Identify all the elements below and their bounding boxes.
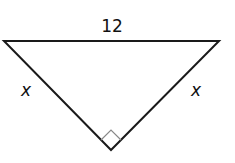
triangle: [4, 41, 219, 150]
triangle-diagram: 12 x x: [0, 0, 235, 163]
right-angle-marker: [101, 130, 121, 140]
left-leg-label: x: [20, 80, 32, 100]
hypotenuse-label: 12: [101, 16, 123, 36]
right-leg-label: x: [190, 80, 202, 100]
